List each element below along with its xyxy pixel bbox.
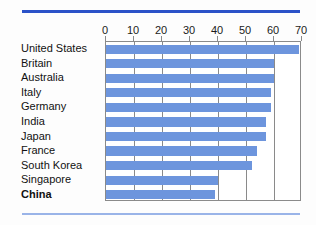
bar: [106, 190, 215, 199]
bar-row: [106, 45, 302, 54]
x-axis-tick-mark: [273, 36, 274, 41]
decorative-rule-bottom: [22, 213, 300, 215]
bar: [106, 45, 299, 54]
x-axis-tick-mark: [301, 36, 302, 41]
bar-row: [106, 88, 302, 97]
bar: [106, 176, 218, 185]
category-label: France: [4, 143, 94, 157]
x-axis-tick-mark: [105, 36, 106, 41]
bar: [106, 103, 271, 112]
x-axis-tick-mark: [189, 36, 190, 41]
category-labels: United StatesBritainAustraliaItalyGerman…: [0, 41, 102, 201]
bar: [106, 59, 274, 68]
category-label: India: [4, 114, 94, 128]
bar-row: [106, 161, 302, 170]
category-label: United States: [4, 41, 94, 55]
bar: [106, 132, 266, 141]
bar-row: [106, 117, 302, 126]
x-axis-tick-mark: [245, 36, 246, 41]
decorative-rule-top: [22, 10, 300, 13]
category-label: Australia: [4, 70, 94, 84]
bar-row: [106, 190, 302, 199]
category-label: Britain: [4, 56, 94, 70]
bar-row: [106, 146, 302, 155]
bar-row: [106, 59, 302, 68]
bar-row: [106, 176, 302, 185]
x-axis-tick-labels: 010203040506070: [0, 24, 316, 38]
bar: [106, 117, 266, 126]
bar-row: [106, 103, 302, 112]
bar-row: [106, 132, 302, 141]
plot-area: [105, 41, 301, 201]
bar: [106, 74, 274, 83]
bar-chart-figure: 010203040506070 United StatesBritainAust…: [0, 0, 316, 225]
bar: [106, 161, 252, 170]
category-label: South Korea: [4, 158, 94, 172]
x-axis-tick-mark: [161, 36, 162, 41]
x-axis-tick-mark: [133, 36, 134, 41]
category-label: Japan: [4, 129, 94, 143]
bar: [106, 146, 257, 155]
bar-row: [106, 74, 302, 83]
bar: [106, 88, 271, 97]
x-axis-tick-mark: [217, 36, 218, 41]
category-label: Singapore: [4, 172, 94, 186]
category-label: Germany: [4, 99, 94, 113]
category-label: China: [4, 187, 94, 201]
category-label: Italy: [4, 85, 94, 99]
